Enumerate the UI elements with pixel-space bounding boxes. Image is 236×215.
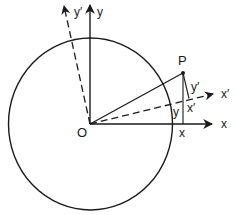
y-component-label: y [173, 105, 179, 119]
origin-label: O [77, 125, 87, 140]
y-prime-component-label: y′ [191, 80, 200, 94]
x-prime-component-label: x′ [187, 101, 196, 115]
rotated-axes-diagram: P O x y x′ y′ x y x′ y′ [0, 0, 236, 215]
y-prime-axis-label: y′ [74, 5, 83, 19]
x-prime-axis-label: x′ [221, 87, 230, 101]
x-axis-label: x [221, 117, 227, 131]
y-prime-axis [64, 6, 90, 124]
x-component-label: x [179, 126, 185, 140]
y-axis-label: y [97, 5, 103, 19]
point-p-label: P [178, 53, 187, 68]
point-p [181, 71, 185, 75]
projection-x-prime [183, 73, 189, 99]
